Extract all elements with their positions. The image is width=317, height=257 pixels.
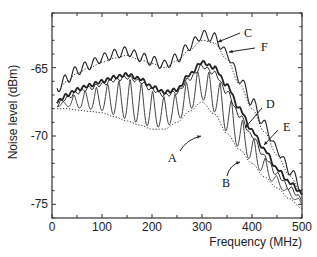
curve-label-c: C [244, 26, 252, 40]
noise-level-chart: 0 100 200 300 400 500 -65 -70 -75 Freque… [0, 0, 317, 257]
x-tick-500: 500 [292, 220, 312, 234]
curve-label-a: A [168, 151, 177, 165]
x-axis-title: Frequency (MHz) [209, 235, 302, 249]
x-tick-100: 100 [92, 220, 112, 234]
arrow-d [245, 108, 262, 128]
curve-label-b: B [222, 176, 230, 190]
x-tick-200: 200 [142, 220, 162, 234]
y-tick-70: -70 [31, 129, 49, 143]
y-tick-65: -65 [31, 62, 49, 76]
curve-label-f: F [261, 40, 268, 54]
curve-label-d: D [266, 97, 275, 111]
curve-a [57, 72, 302, 205]
curves [57, 31, 302, 209]
curve-c [57, 31, 302, 192]
x-tick-0: 0 [49, 220, 56, 234]
arrow-f [229, 48, 255, 52]
curve-d [57, 61, 302, 195]
y-axis-title: Noise level (dBm) [6, 65, 20, 160]
x-tick-400: 400 [242, 220, 262, 234]
arrow-b [227, 162, 240, 176]
y-tick-75: -75 [31, 197, 49, 211]
x-tick-300: 300 [192, 220, 212, 234]
curve-label-e: E [283, 120, 290, 134]
